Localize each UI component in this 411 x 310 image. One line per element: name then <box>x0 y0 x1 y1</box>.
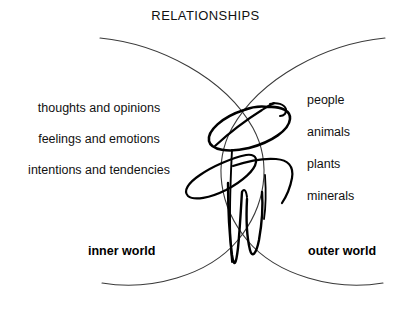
list-item: people <box>307 93 407 108</box>
outer-world-label: outer world <box>308 244 376 258</box>
list-item: minerals <box>307 189 407 204</box>
outer-world-list: people animals plants minerals <box>307 93 407 221</box>
list-item: feelings and emotions <box>14 132 184 147</box>
inner-world-label: inner world <box>88 244 155 258</box>
page-title: RELATIONSHIPS <box>0 8 411 23</box>
list-item: thoughts and opinions <box>14 101 184 116</box>
inner-world-list: thoughts and opinions feelings and emoti… <box>14 101 184 194</box>
list-item: intentions and tendencies <box>14 163 184 178</box>
list-item: animals <box>307 125 407 140</box>
list-item: plants <box>307 157 407 172</box>
diagram-canvas: RELATIONSHIPS thoughts and opinions feel… <box>0 0 411 310</box>
central-figure-icon <box>186 103 292 263</box>
